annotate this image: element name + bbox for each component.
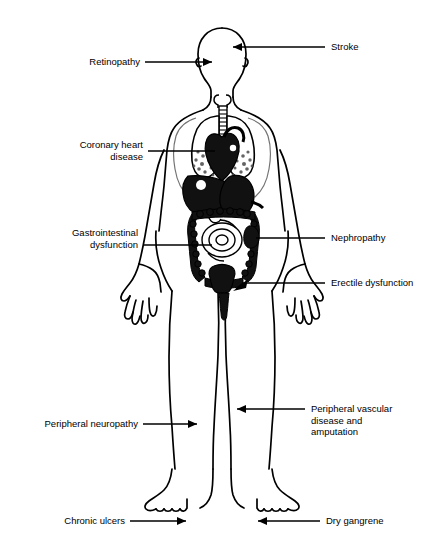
label-peripheral-neuropathy: Peripheral neuropathy: [18, 418, 138, 430]
leg-left-outer: [169, 291, 175, 469]
arm-left-outline: [139, 150, 164, 264]
bladder-genitals-icon: [209, 265, 235, 321]
neck-right: [233, 97, 241, 110]
diabetes-complications-diagram: Retinopathy Stroke Coronary heart diseas…: [0, 0, 445, 558]
hip-right: [272, 231, 288, 291]
label-stroke: Stroke: [331, 41, 441, 53]
wrist-left: [139, 264, 161, 292]
foot-left: [145, 469, 172, 511]
label-erectile-dysfunction: Erectile dysfunction: [331, 277, 443, 289]
label-gastrointestinal-dysfunction: Gastrointestinal dysfunction: [25, 227, 138, 250]
hip-left: [156, 231, 172, 291]
small-intestine-icon: [202, 220, 242, 261]
neck-left: [203, 97, 211, 110]
label-nephropathy: Nephropathy: [331, 232, 441, 244]
label-retinopathy: Retinopathy: [45, 56, 140, 68]
wrist-right: [283, 264, 305, 292]
ankle-left: [200, 469, 213, 508]
label-peripheral-vascular-disease: Peripheral vascular disease and amputati…: [311, 403, 436, 438]
leg-left-inner: [213, 291, 219, 469]
ankle-right: [231, 469, 244, 508]
label-chronic-ulcers: Chronic ulcers: [45, 515, 125, 527]
leg-right-outer: [269, 291, 275, 469]
label-coronary-heart-disease: Coronary heart disease: [40, 139, 143, 162]
foot-right: [272, 469, 299, 511]
kidney-icon: [244, 226, 259, 248]
arm-right-outline: [280, 150, 305, 264]
internal-organs: [174, 95, 271, 320]
label-dry-gangrene: Dry gangrene: [326, 515, 426, 527]
